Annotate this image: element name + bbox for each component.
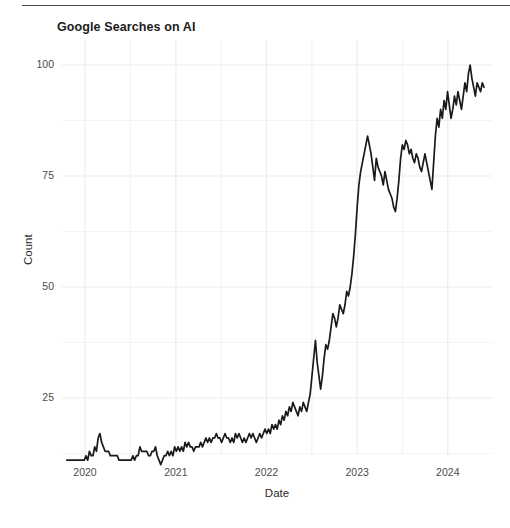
x-axis-title: Date [197,487,357,499]
chart-page: Google Searches on AI 25 50 75 100 2020 … [0,0,510,528]
y-tick-label: 25 [14,391,54,403]
data-series-group [67,65,484,465]
x-tick-label: 2021 [146,466,206,478]
y-tick-label: 100 [14,58,54,70]
x-tick-label: 2023 [327,466,387,478]
gridlines [62,40,492,455]
line-chart-plot [0,0,510,528]
x-tick-label: 2024 [418,466,478,478]
y-axis-title: Count [22,234,34,265]
x-tick-label: 2020 [55,466,115,478]
y-tick-label: 50 [14,280,54,292]
y-tick-label: 75 [14,169,54,181]
x-tick-label: 2022 [237,466,297,478]
